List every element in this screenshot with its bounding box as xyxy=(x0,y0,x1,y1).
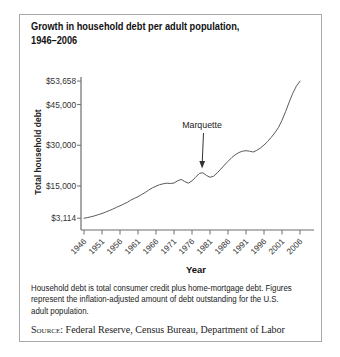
footnote: Household debt is total consumer credit … xyxy=(31,283,313,317)
y-tick-label: $45,000 xyxy=(46,100,76,110)
y-tick-label: $30,000 xyxy=(46,140,76,150)
footnote-line: Household debt is total consumer credit … xyxy=(31,283,313,294)
y-tick-label: $3,114 xyxy=(51,213,76,223)
debt-line xyxy=(84,81,300,218)
annotation-marquette: Marquette xyxy=(182,120,222,130)
source-prefix: Source: xyxy=(31,324,63,335)
source-text: Federal Reserve, Census Bureau, Departme… xyxy=(66,324,285,335)
y-tick-label: $53,658 xyxy=(46,76,76,86)
annotation-arrow-head xyxy=(199,161,205,169)
annotation-arrow-shaft xyxy=(202,133,203,161)
footnote-line: adult population. xyxy=(31,306,313,317)
x-axis-title: Year xyxy=(186,264,206,275)
footnote-line: represent the inflation-adjusted amount … xyxy=(31,294,313,305)
y-tick-label: $15,000 xyxy=(46,181,76,191)
figure-page: Growth in household debt per adult popul… xyxy=(0,0,340,357)
source-line: Source: Federal Reserve, Census Bureau, … xyxy=(31,324,321,335)
